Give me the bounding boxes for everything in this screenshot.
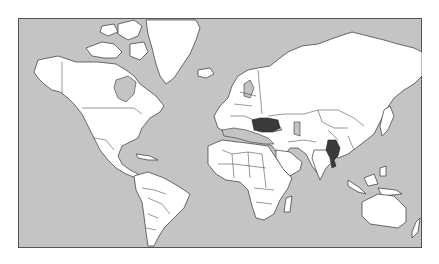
world-map-svg — [18, 18, 422, 248]
caspian-sea — [294, 122, 300, 136]
world-map — [18, 18, 422, 248]
country-turkey — [252, 118, 280, 132]
